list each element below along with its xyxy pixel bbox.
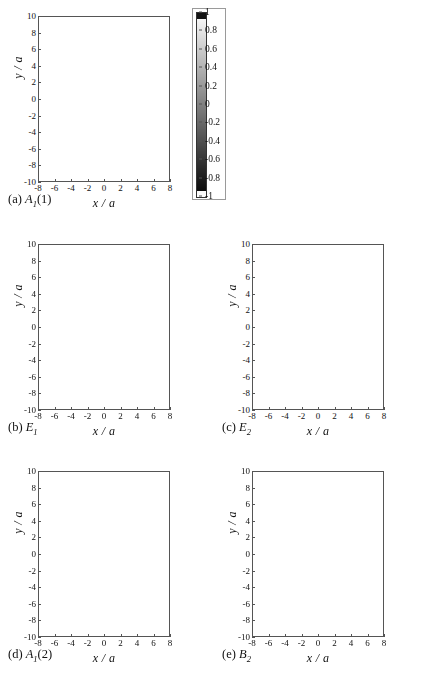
x-tick-mark (269, 407, 270, 410)
y-tick-mark (252, 294, 255, 295)
y-tick-mark (38, 182, 41, 183)
x-tick-mark (170, 407, 171, 410)
x-tick-mark (351, 634, 352, 637)
panel-caption-b: (b) E1 (8, 420, 38, 437)
y-tick-mark (252, 587, 255, 588)
y-tick-mark (252, 310, 255, 311)
x-tick-mark (335, 634, 336, 637)
x-tick-mark (137, 407, 138, 410)
y-tick-mark (252, 554, 255, 555)
panel-caption-d: (d) A1(2) (8, 647, 52, 664)
x-tick-label: 2 (113, 183, 129, 193)
caption-prefix: (e) (222, 647, 236, 661)
y-tick-label: -4 (14, 355, 36, 365)
x-tick-label: 6 (360, 638, 376, 648)
x-tick-label: 8 (376, 638, 392, 648)
caption-symbol: A (25, 192, 33, 206)
x-tick-mark (154, 634, 155, 637)
x-tick-mark (121, 407, 122, 410)
x-tick-mark (285, 634, 286, 637)
x-tick-label: 2 (327, 638, 343, 648)
y-tick-mark (252, 393, 255, 394)
x-axis-ticks-e: -8-6-4-202468 (252, 638, 384, 652)
y-tick-label: 0 (228, 322, 250, 332)
y-tick-mark (252, 637, 255, 638)
x-tick-label: 0 (96, 183, 112, 193)
colorbar-tick-label: 0.4 (205, 62, 217, 72)
x-tick-mark (55, 407, 56, 410)
colorbar-tick-label: -0.2 (205, 117, 220, 127)
caption-prefix: (a) (8, 192, 22, 206)
panel-a: 1086420-2-4-6-8-10-8-6-4-202468y / ax / … (0, 0, 214, 227)
x-tick-label: 2 (113, 411, 129, 421)
x-tick-mark (71, 634, 72, 637)
y-tick-mark (38, 49, 41, 50)
x-tick-label: -2 (80, 638, 96, 648)
x-tick-label: -6 (261, 411, 277, 421)
x-tick-mark (137, 179, 138, 182)
x-tick-mark (38, 407, 39, 410)
y-tick-mark (252, 471, 255, 472)
x-tick-label: 0 (310, 638, 326, 648)
y-axis-label-c: y / a (225, 276, 240, 316)
plot-frame-d (38, 471, 170, 637)
y-tick-mark (252, 261, 255, 262)
colorbar-tick-mark (199, 12, 202, 13)
x-tick-mark (335, 407, 336, 410)
y-tick-mark (38, 99, 41, 100)
x-tick-label: 6 (360, 411, 376, 421)
colorbar-tick-mark (199, 177, 202, 178)
y-tick-label: -6 (14, 599, 36, 609)
x-tick-label: 2 (113, 638, 129, 648)
y-tick-label: -2 (228, 566, 250, 576)
x-tick-mark (302, 407, 303, 410)
x-tick-label: -6 (261, 638, 277, 648)
y-tick-label: 10 (228, 466, 250, 476)
caption-prefix: (c) (222, 420, 236, 434)
x-tick-label: 0 (96, 411, 112, 421)
y-tick-mark (252, 620, 255, 621)
caption-prefix: (b) (8, 420, 23, 434)
y-tick-mark (38, 132, 41, 133)
y-axis-label-a: y / a (11, 48, 26, 88)
x-tick-mark (318, 634, 319, 637)
y-tick-mark (252, 327, 255, 328)
y-tick-label: -6 (14, 144, 36, 154)
y-tick-label: 0 (228, 549, 250, 559)
y-tick-mark (38, 310, 41, 311)
plot-frame-e (252, 471, 384, 637)
x-tick-mark (384, 407, 385, 410)
y-axis-ticks-a: 1086420-2-4-6-8-10 (8, 16, 36, 182)
y-tick-mark (38, 587, 41, 588)
y-tick-label: 0 (14, 94, 36, 104)
y-tick-label: -8 (14, 388, 36, 398)
panel-c: 1086420-2-4-6-8-10-8-6-4-202468y / ax / … (214, 228, 428, 455)
y-tick-mark (38, 261, 41, 262)
x-tick-label: 8 (162, 183, 178, 193)
y-tick-mark (38, 82, 41, 83)
y-tick-mark (38, 554, 41, 555)
x-tick-label: 8 (162, 638, 178, 648)
y-tick-label: -4 (228, 582, 250, 592)
y-tick-mark (252, 277, 255, 278)
plot-area-d (38, 471, 170, 637)
x-tick-mark (71, 407, 72, 410)
x-tick-label: 0 (310, 411, 326, 421)
y-tick-label: -6 (14, 372, 36, 382)
x-tick-label: -4 (63, 411, 79, 421)
y-axis-label-d: y / a (11, 503, 26, 543)
y-tick-mark (38, 620, 41, 621)
panel-caption-e: (e) B2 (222, 647, 251, 664)
x-tick-mark (104, 634, 105, 637)
colorbar-tick-mark (199, 196, 202, 197)
x-tick-label: 0 (96, 638, 112, 648)
y-tick-mark (252, 604, 255, 605)
x-tick-mark (38, 179, 39, 182)
y-tick-mark (38, 277, 41, 278)
plot-frame-b (38, 244, 170, 410)
caption-prefix: (d) (8, 647, 23, 661)
x-tick-mark (137, 634, 138, 637)
y-tick-label: -2 (14, 566, 36, 576)
y-tick-mark (38, 410, 41, 411)
x-tick-mark (368, 407, 369, 410)
